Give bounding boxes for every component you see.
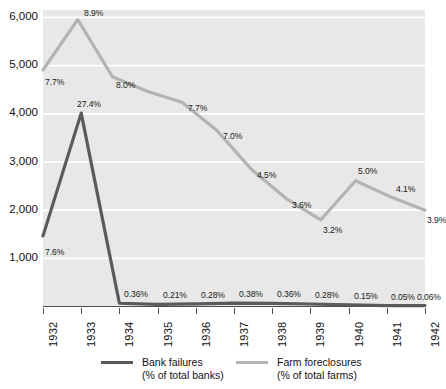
data-label-bank-7: 0.28% [315,291,339,300]
data-label-farm-11: 3.9% [427,216,446,225]
legend-label-bank-failures-sub: (% of total banks) [142,369,224,381]
data-label-farm-2: 8.0% [116,81,135,90]
legend-label-bank-failures-title: Bank failures [142,356,203,368]
x-axis-label: 1934 [124,322,135,347]
data-label-farm-4: 7.7% [188,104,207,113]
data-label-farm-8: 3.2% [323,226,342,235]
x-axis-label: 1942 [430,322,441,347]
data-label-bank-1: 27.4% [77,100,101,109]
data-label-bank-10: 0.06% [417,293,441,302]
y-axis-label: 3,000 [0,156,38,168]
legend-label-farm-foreclosures: Farm foreclosures (% of total farms) [277,356,362,381]
x-axis-label: 1938 [277,322,288,347]
y-axis-label: 6,000 [0,11,38,23]
data-label-bank-0: 7.6% [45,248,64,257]
data-label-bank-3: 0.21% [163,291,187,300]
chart-legend: Bank failures (% of total banks) Farm fo… [0,352,442,389]
legend-label-farm-foreclosures-sub: (% of total farms) [277,369,357,381]
data-label-bank-6: 0.36% [277,290,301,299]
data-label-farm-7: 3.6% [292,201,311,210]
data-label-bank-2: 0.36% [124,290,148,299]
x-axis-label: 1940 [354,322,365,347]
legend-swatch-farm-foreclosures [236,361,268,364]
y-axis-label: 4,000 [0,107,38,119]
legend-label-bank-failures: Bank failures (% of total banks) [142,356,224,381]
data-label-bank-5: 0.38% [239,290,263,299]
x-axis-label: 1939 [315,322,326,347]
legend-swatch-bank-failures [101,361,133,364]
legend-item-farm-foreclosures[interactable]: Farm foreclosures (% of total farms) [236,356,362,381]
y-axis-label: 1,000 [0,252,38,264]
data-label-bank-9: 0.05% [391,293,415,302]
x-axis-label: 1935 [163,322,174,347]
legend-label-farm-foreclosures-title: Farm foreclosures [277,356,362,368]
x-axis-label: 1937 [239,322,250,347]
y-axis-label: 5,000 [0,59,38,71]
data-label-farm-1: 8.9% [84,9,103,18]
legend-item-bank-failures[interactable]: Bank failures (% of total banks) [101,356,224,381]
data-label-farm-6: 4.5% [257,171,276,180]
x-axis-label: 1933 [86,322,97,347]
x-axis-label: 1936 [201,322,212,347]
data-label-bank-4: 0.28% [201,291,225,300]
data-label-farm-5: 7.0% [223,132,242,141]
x-axis-label: 1941 [392,322,403,347]
x-axis-label: 1932 [48,322,59,347]
data-label-bank-8: 0.15% [354,292,378,301]
data-label-farm-9: 5.0% [358,167,377,176]
data-label-farm-10: 4.1% [396,185,415,194]
x-axis-ticks [44,308,426,314]
data-label-farm-0: 7.7% [45,78,64,87]
y-axis-label: 2,000 [0,204,38,216]
